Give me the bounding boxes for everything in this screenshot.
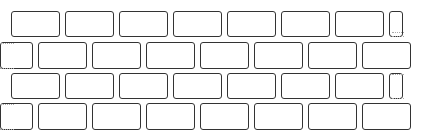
brick [335,73,384,99]
brick [146,103,195,130]
brick [335,11,384,37]
mortar-line [0,104,14,105]
brick [362,103,411,130]
brick [254,42,303,69]
brick [173,11,222,37]
brick [200,103,249,130]
mortar-line [392,36,404,37]
brick [281,11,330,37]
brick [11,73,60,99]
mortar-line [392,98,404,99]
brick [308,42,357,69]
mortar-line [392,74,404,75]
brick [119,73,168,99]
brick [173,73,222,99]
brick [119,11,168,37]
brick [38,103,87,130]
brick [227,73,276,99]
brick [389,73,403,99]
brick [227,11,276,37]
brick [65,73,114,99]
brick [92,103,141,130]
mortar-line [392,32,404,33]
brick [0,103,33,130]
brick-wall-illustration [0,0,424,138]
brick [281,73,330,99]
brick [146,42,195,69]
brick [308,103,357,130]
brick [38,42,87,69]
mortar-line [0,129,14,130]
brick [200,42,249,69]
brick [254,103,303,130]
brick [92,42,141,69]
mortar-line [0,68,14,69]
brick [389,11,403,37]
brick [11,11,60,37]
brick [65,11,114,37]
brick [0,42,33,69]
mortar-line [0,43,14,44]
brick [362,42,411,69]
